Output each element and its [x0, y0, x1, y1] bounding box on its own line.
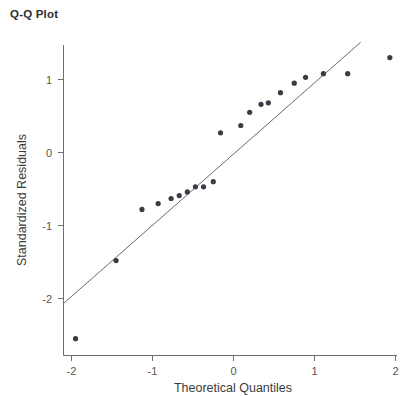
data-point — [345, 71, 350, 76]
y-tick-label-0: 1 — [46, 74, 52, 86]
x-tick-label-3: 1 — [311, 365, 317, 377]
data-point — [266, 100, 271, 105]
reference-line — [63, 42, 360, 303]
data-point — [193, 184, 198, 189]
x-tick-label-0: -2 — [67, 365, 77, 377]
y-tick-label-2: -1 — [42, 220, 52, 232]
x-axis-ticks — [72, 356, 396, 362]
data-point — [201, 184, 206, 189]
x-tick-label-2: 0 — [230, 365, 236, 377]
data-point — [177, 193, 182, 198]
data-point — [113, 258, 118, 263]
data-point — [169, 196, 174, 201]
data-point — [185, 189, 190, 194]
data-point — [292, 81, 297, 86]
data-point — [238, 123, 243, 128]
x-tick-label-4: 2 — [392, 365, 398, 377]
qq-plot-figure: Q-Q Plot -2 -1 0 1 2 1 0 -1 -2 — [0, 0, 400, 396]
data-point — [247, 110, 252, 115]
y-tick-label-3: -2 — [42, 293, 52, 305]
x-tick-label-1: -1 — [148, 365, 158, 377]
data-points-group — [73, 55, 392, 341]
data-point — [258, 102, 263, 107]
data-point — [73, 336, 78, 341]
data-point — [139, 207, 144, 212]
data-point — [156, 201, 161, 206]
data-point — [387, 55, 392, 60]
y-tick-label-1: 0 — [46, 147, 52, 159]
data-point — [321, 71, 326, 76]
y-axis-ticks — [58, 80, 64, 299]
data-point — [218, 130, 223, 135]
data-point — [303, 75, 308, 80]
x-axis-title: Theoretical Quantiles — [174, 381, 292, 395]
data-point — [278, 90, 283, 95]
y-axis-title: Standardized Residuals — [15, 134, 29, 266]
qq-plot-canvas: -2 -1 0 1 2 1 0 -1 -2 Theoretical Quanti… — [0, 0, 400, 396]
data-point — [211, 179, 216, 184]
